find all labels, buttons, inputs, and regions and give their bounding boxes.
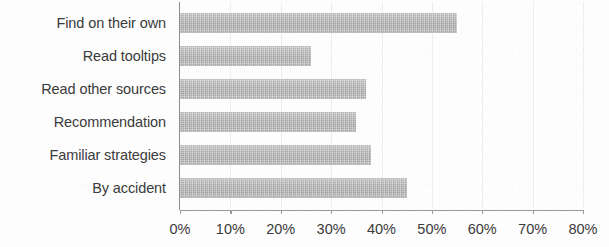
gridline bbox=[482, 2, 483, 208]
bar bbox=[180, 178, 407, 198]
x-axis-tick bbox=[281, 210, 282, 214]
gridline bbox=[533, 2, 534, 208]
x-axis-tick bbox=[583, 210, 584, 214]
x-axis-tick bbox=[180, 210, 181, 214]
x-axis-tick bbox=[230, 210, 231, 214]
category-label: Recommendation bbox=[54, 112, 166, 132]
bar bbox=[180, 112, 356, 132]
bar bbox=[180, 145, 371, 165]
plot-area bbox=[180, 0, 583, 210]
bar-chart: Find on their own Read tooltips Read oth… bbox=[0, 0, 609, 247]
x-axis-tick bbox=[482, 210, 483, 214]
category-label: Find on their own bbox=[56, 13, 166, 33]
bar bbox=[180, 13, 457, 33]
x-axis-tick bbox=[382, 210, 383, 214]
category-label: By accident bbox=[92, 178, 166, 198]
x-axis-tick bbox=[533, 210, 534, 214]
category-label: Read other sources bbox=[41, 79, 166, 99]
bar bbox=[180, 46, 311, 66]
bar bbox=[180, 79, 366, 99]
category-label: Familiar strategies bbox=[49, 145, 166, 165]
gridline bbox=[583, 2, 584, 208]
x-axis-tick bbox=[331, 210, 332, 214]
x-axis-tick-label: 80% bbox=[553, 218, 609, 240]
category-axis-labels: Find on their own Read tooltips Read oth… bbox=[0, 0, 173, 210]
category-label: Read tooltips bbox=[83, 46, 166, 66]
x-axis-tick-labels: 0%10%20%30%40%50%60%70%80% bbox=[0, 218, 609, 242]
x-axis-tick bbox=[432, 210, 433, 214]
